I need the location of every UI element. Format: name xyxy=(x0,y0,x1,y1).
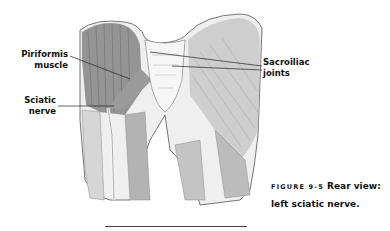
figure-caption: FIGURE 9-5 Rear view: left sciatic nerve… xyxy=(271,178,381,213)
label-line: joints xyxy=(263,68,323,79)
left-gluteus xyxy=(82,23,142,115)
label-sacroiliac-joints: Sacroiliac joints xyxy=(263,57,323,79)
label-line: nerve xyxy=(14,106,56,117)
label-piriformis-muscle: Piriformis muscle xyxy=(14,49,68,71)
figure-title: Rear view: xyxy=(327,181,381,191)
label-line: Sacroiliac xyxy=(263,57,323,68)
figure-subtitle: left sciatic nerve. xyxy=(271,196,381,213)
label-line: Piriformis xyxy=(14,49,68,60)
figure-number: FIGURE 9-5 xyxy=(271,183,324,191)
label-sciatic-nerve: Sciatic nerve xyxy=(14,95,56,117)
label-line: muscle xyxy=(14,60,68,71)
bottom-rule xyxy=(105,226,247,227)
right-hamstring xyxy=(175,140,205,200)
label-line: Sciatic xyxy=(14,95,56,106)
left-thigh xyxy=(82,110,104,200)
